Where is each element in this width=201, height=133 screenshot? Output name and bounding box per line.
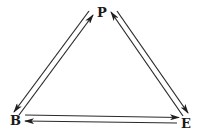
- node-label-p: P: [97, 6, 107, 19]
- edge-p-to-e: [117, 11, 188, 113]
- edge-p-to-b: [14, 11, 89, 112]
- edge-b-to-e: [25, 115, 179, 118]
- diagram-canvas: P B E: [0, 0, 201, 133]
- edge-e-to-b: [25, 121, 177, 123]
- edge-b-to-p: [19, 15, 93, 115]
- node-label-e: E: [181, 117, 191, 130]
- edge-e-to-p: [111, 12, 183, 116]
- node-label-b: B: [10, 114, 21, 127]
